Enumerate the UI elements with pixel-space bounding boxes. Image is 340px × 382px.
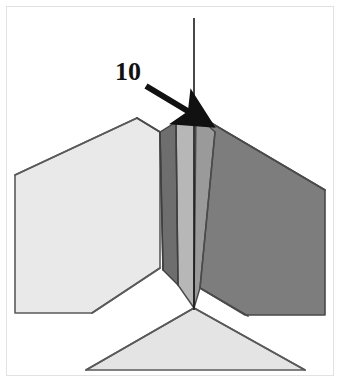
groove-inner-light-face bbox=[176, 114, 196, 308]
callout-label-10: 10 bbox=[115, 57, 141, 86]
technical-diagram-canvas: 10 bbox=[0, 0, 340, 382]
figure-root: 10 bbox=[0, 0, 340, 382]
